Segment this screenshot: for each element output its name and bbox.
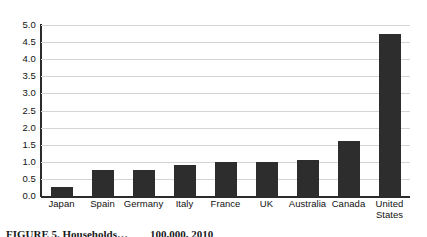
- y-axis-tick-labels: 5.0 4.5 4.0 3.5 3.0 2.5 2.0 1.5 1.0 0.5 …: [0, 25, 36, 196]
- x-label-canada: Canada: [328, 198, 369, 209]
- figure-caption-text: FIGURE 5. Households… 100,000, 2010: [6, 228, 213, 237]
- y-tick-label: 1.0: [0, 157, 36, 167]
- bar-canada: [338, 141, 360, 196]
- bar-united-states: [379, 34, 401, 196]
- bar-chart-figure: 5.0 4.5 4.0 3.5 3.0 2.5 2.0 1.5 1.0 0.5 …: [0, 0, 427, 237]
- y-tick-label: 4.0: [0, 54, 36, 64]
- y-tick-label: 2.0: [0, 123, 36, 133]
- bar-series: [41, 25, 410, 196]
- x-label-united-states: United States: [369, 198, 410, 220]
- y-tick-label: 5.0: [0, 20, 36, 30]
- bar-spain: [92, 170, 114, 196]
- bar-slot: [328, 25, 369, 196]
- bar-slot: [164, 25, 205, 196]
- x-label-japan: Japan: [41, 198, 82, 209]
- bar-slot: [287, 25, 328, 196]
- y-tick-label: 3.5: [0, 72, 36, 82]
- x-axis-category-labels: Japan Spain Germany Italy France UK Aust…: [41, 198, 410, 220]
- plot-area: [41, 25, 410, 196]
- x-label-italy: Italy: [164, 198, 205, 209]
- figure-caption-clipped: FIGURE 5. Households… 100,000, 2010: [0, 228, 427, 237]
- bar-japan: [51, 187, 73, 196]
- bar-slot: [82, 25, 123, 196]
- x-label-france: France: [205, 198, 246, 209]
- x-label-uk: UK: [246, 198, 287, 209]
- bar-slot: [123, 25, 164, 196]
- y-tick-label: 0.0: [0, 191, 36, 201]
- y-tick-label: 0.5: [0, 174, 36, 184]
- y-tick-label: 4.5: [0, 37, 36, 47]
- bar-france: [215, 162, 237, 196]
- bar-italy: [174, 165, 196, 196]
- bar-australia: [297, 160, 319, 196]
- bar-slot: [41, 25, 82, 196]
- x-label-germany: Germany: [123, 198, 164, 209]
- bar-germany: [133, 170, 155, 196]
- bar-uk: [256, 162, 278, 196]
- y-tick-label: 3.0: [0, 89, 36, 99]
- bar-slot: [205, 25, 246, 196]
- bar-slot: [246, 25, 287, 196]
- bar-slot: [369, 25, 410, 196]
- y-tick-label: 2.5: [0, 106, 36, 116]
- x-label-australia: Australia: [287, 198, 328, 209]
- y-tick-label: 1.5: [0, 140, 36, 150]
- x-label-spain: Spain: [82, 198, 123, 209]
